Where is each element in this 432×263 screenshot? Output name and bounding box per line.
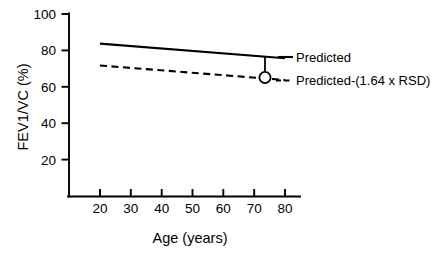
chart-canvas: 100 80 60 40 20 FEV1/VC (%) 20 30 40 50 … [0,0,432,263]
y-tick-label-60: 60 [41,80,56,95]
y-axis-title: FEV1/VC (%) [15,63,31,150]
y-tick-label-100: 100 [33,7,56,22]
x-tick-label-50: 50 [185,201,200,216]
chart-figure: 100 80 60 40 20 FEV1/VC (%) 20 30 40 50 … [0,0,432,263]
series-line-predicted-minus-rsd [100,66,285,81]
x-tick-label-70: 70 [247,201,262,216]
x-axis-title: Age (years) [153,230,228,246]
observed-point-group [259,57,270,84]
legend: Predicted Predicted-(1.64 x RSD) [276,50,430,89]
x-tick-label-20: 20 [92,201,107,216]
y-axis: 100 80 60 40 20 FEV1/VC (%) [15,7,69,197]
series-line-predicted [100,44,285,59]
legend-label-predicted-minus-rsd: Predicted-(1.64 x RSD) [296,73,430,88]
y-tick-label-20: 20 [41,153,56,168]
legend-label-predicted: Predicted [296,50,351,65]
open-circle-marker [259,72,270,83]
y-tick-label-40: 40 [41,116,56,131]
x-axis: 20 30 40 50 60 70 80 Age (years) [68,189,300,246]
x-tick-label-60: 60 [216,201,231,216]
x-tick-label-80: 80 [277,201,292,216]
x-tick-label-30: 30 [123,201,138,216]
x-tick-label-40: 40 [154,201,169,216]
y-tick-label-80: 80 [41,43,56,58]
